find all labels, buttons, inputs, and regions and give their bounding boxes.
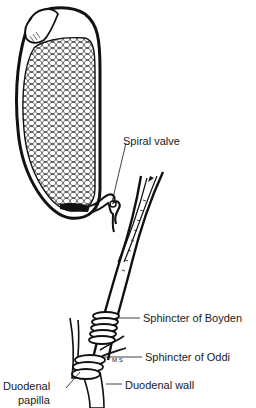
biliary-anatomy-illustration: M S [0, 0, 256, 408]
label-duodenal-wall: Duodenal wall [125, 379, 194, 391]
artist-initials: M S [112, 357, 123, 363]
gallbladder [17, 8, 101, 219]
label-sphincter-of-boyden: Sphincter of Boyden [143, 312, 242, 324]
label-sphincter-of-oddi: Sphincter of Oddi [145, 351, 230, 363]
sphincter-of-boyden-coils [89, 312, 119, 344]
label-spiral-valve: Spiral valve [123, 135, 180, 147]
label-duodenal-papilla-line1: Duodenal [3, 380, 50, 392]
label-duodenal-papilla-line2: papilla [18, 394, 50, 406]
